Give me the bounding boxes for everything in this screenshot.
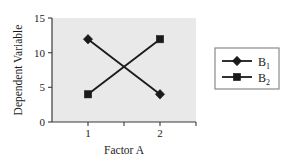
chart-figure: 15 10 5 0 1 2 Factor A Dependent Variabl… xyxy=(0,0,286,164)
x-tick-label-1: 1 xyxy=(85,127,91,139)
y-tick-label-10: 10 xyxy=(34,47,46,59)
legend-subscript-b2: 2 xyxy=(266,78,270,87)
y-tick-label-0: 0 xyxy=(40,116,46,128)
plot-area-background xyxy=(52,18,196,122)
x-axis-title: Factor A xyxy=(104,144,145,156)
legend: B 1 B 2 xyxy=(215,48,279,89)
legend-label-b2: B xyxy=(258,71,266,85)
series-b2-point-1 xyxy=(84,91,91,98)
legend-subscript-b1: 1 xyxy=(266,62,270,71)
y-tick-label-5: 5 xyxy=(40,81,46,93)
series-b2-point-2 xyxy=(156,36,163,43)
legend-label-b1: B xyxy=(258,55,266,69)
legend-marker-square-icon xyxy=(233,73,240,80)
x-tick-label-2: 2 xyxy=(157,127,163,139)
interaction-plot-svg: 15 10 5 0 1 2 Factor A Dependent Variabl… xyxy=(0,0,286,164)
y-tick-label-15: 15 xyxy=(34,12,46,24)
y-axis-title: Dependent Variable xyxy=(12,25,25,116)
